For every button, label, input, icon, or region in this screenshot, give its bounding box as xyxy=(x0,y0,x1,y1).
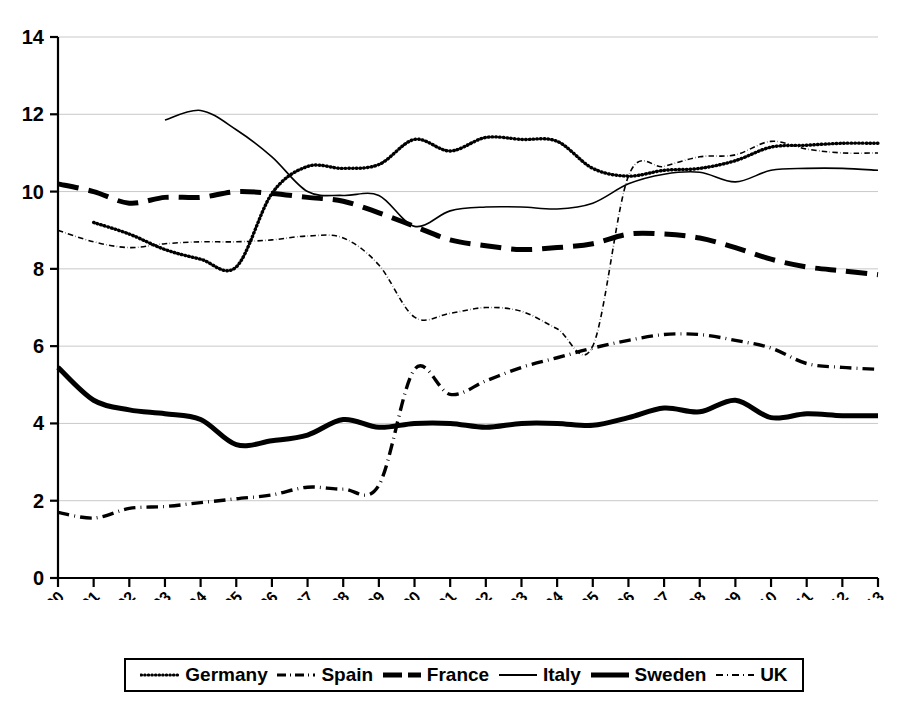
x-tick-label: 2004 xyxy=(529,588,566,600)
x-tick-label: 2008 xyxy=(672,588,709,600)
x-tick-label: 1990 xyxy=(30,588,67,600)
series-line-italy xyxy=(165,110,878,226)
legend-item-label: France xyxy=(427,664,489,686)
legend-item-sweden[interactable]: Sweden xyxy=(590,664,707,686)
x-tick-label: 1995 xyxy=(208,588,245,600)
legend-item-italy[interactable]: Italy xyxy=(498,664,581,686)
x-tick-label: 2007 xyxy=(636,588,673,600)
x-tick-label: 2013 xyxy=(850,588,887,600)
legend-item-label: Germany xyxy=(185,664,267,686)
y-gridlines xyxy=(58,37,878,501)
x-tick-label: 1998 xyxy=(315,588,352,600)
series-line-sweden xyxy=(58,367,878,445)
x-tick-label: 1992 xyxy=(101,588,138,600)
y-tick-label: 14 xyxy=(22,26,45,48)
x-tick-label: 2001 xyxy=(422,588,459,600)
series-line-france xyxy=(58,184,878,275)
legend-item-label: UK xyxy=(760,664,787,686)
y-tick-label: 12 xyxy=(22,103,44,125)
legend-item-label: Italy xyxy=(543,664,581,686)
x-tick-label: 1999 xyxy=(351,588,388,600)
y-tick-label: 0 xyxy=(33,567,44,589)
x-tick-label: 1993 xyxy=(137,588,174,600)
series-line-germany xyxy=(94,137,878,271)
line-chart: 0246810121419901991199219931994199519961… xyxy=(0,0,914,600)
legend-item-germany[interactable]: Germany xyxy=(140,664,267,686)
x-tick-label: 2006 xyxy=(600,588,637,600)
series-line-uk xyxy=(58,141,878,355)
legend-swatch-dashdot xyxy=(276,667,316,683)
legend-item-label: Spain xyxy=(321,664,373,686)
x-tick-label: 2002 xyxy=(458,588,495,600)
legend-swatch-dashdot-thin xyxy=(715,667,755,683)
x-tick-label: 2011 xyxy=(779,588,816,600)
data-series-group xyxy=(58,110,878,518)
y-tick-label: 4 xyxy=(33,412,45,434)
x-tick-label: 1997 xyxy=(279,588,316,600)
x-tick-label: 2005 xyxy=(565,588,602,600)
x-tick-label: 2000 xyxy=(386,588,423,600)
legend-swatch-dashed xyxy=(382,667,422,683)
x-tick-label: 1991 xyxy=(66,588,103,600)
legend-swatch-dotted xyxy=(140,667,180,683)
chart-legend: GermanySpainFranceItalySwedenUK xyxy=(124,658,804,692)
legend-item-label: Sweden xyxy=(635,664,707,686)
legend-swatch-solid-thin xyxy=(498,667,538,683)
legend-item-uk[interactable]: UK xyxy=(715,664,787,686)
axes xyxy=(58,37,878,578)
x-tick-label: 1994 xyxy=(173,588,210,600)
y-tick-label: 10 xyxy=(22,181,44,203)
x-tick-label: 1996 xyxy=(244,588,281,600)
y-tick-label: 6 xyxy=(33,335,44,357)
y-axis-ticks: 02468101214 xyxy=(22,26,58,589)
x-tick-label: 2003 xyxy=(493,588,530,600)
x-axis-ticks: 1990199119921993199419951996199719981999… xyxy=(30,578,887,600)
y-tick-label: 2 xyxy=(33,490,44,512)
y-tick-label: 8 xyxy=(33,258,44,280)
x-tick-label: 2009 xyxy=(707,588,744,600)
chart-svg: 0246810121419901991199219931994199519961… xyxy=(0,0,914,600)
x-tick-label: 2012 xyxy=(814,588,851,600)
legend-swatch-solid-thick xyxy=(590,667,630,683)
legend-item-spain[interactable]: Spain xyxy=(276,664,373,686)
x-tick-label: 2010 xyxy=(743,588,780,600)
chart-page: 0246810121419901991199219931994199519961… xyxy=(0,0,914,708)
legend-item-france[interactable]: France xyxy=(382,664,489,686)
